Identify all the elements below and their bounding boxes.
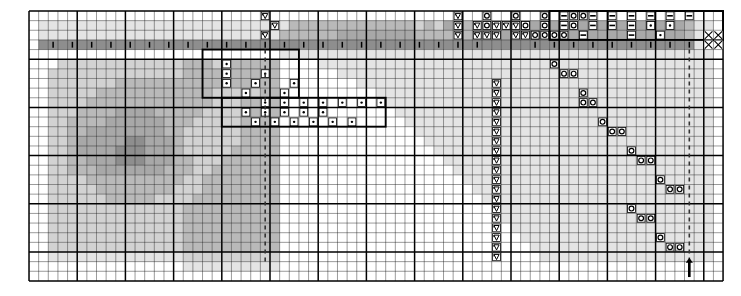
shaded-cell	[588, 88, 598, 98]
shaded-cell	[231, 233, 241, 243]
shaded-cell	[125, 78, 135, 88]
shaded-cell	[212, 117, 222, 127]
shaded-cell	[530, 98, 540, 108]
shaded-cell	[550, 242, 560, 252]
shaded-cell	[106, 30, 116, 40]
shaded-cell	[617, 69, 627, 79]
shaded-cell	[270, 88, 280, 98]
shaded-cell	[164, 185, 174, 195]
shaded-cell	[434, 50, 444, 60]
shaded-cell	[231, 98, 241, 108]
shaded-cell	[68, 242, 78, 252]
shaded-cell	[511, 175, 521, 185]
shaded-cell	[48, 233, 58, 243]
shaded-cell	[203, 69, 213, 79]
shaded-cell	[598, 88, 608, 98]
shaded-cell	[472, 127, 482, 137]
shaded-cell	[299, 21, 309, 31]
dot-symbol	[322, 111, 324, 113]
shaded-cell	[636, 146, 646, 156]
shaded-cell	[231, 204, 241, 214]
shaded-cell	[212, 69, 222, 79]
shaded-cell	[135, 107, 145, 117]
shaded-cell	[106, 204, 116, 214]
shaded-cell	[241, 242, 251, 252]
shaded-cell	[636, 98, 646, 108]
shaded-cell	[665, 107, 675, 117]
shaded-cell	[656, 223, 666, 233]
shaded-cell	[511, 88, 521, 98]
shaded-cell	[154, 117, 164, 127]
shaded-cell	[135, 252, 145, 262]
shaded-cell	[578, 185, 588, 195]
shaded-cell	[482, 78, 492, 88]
shaded-cell	[694, 194, 704, 204]
shaded-cell	[540, 136, 550, 146]
shaded-cell	[472, 59, 482, 69]
shaded-cell	[135, 165, 145, 175]
shaded-cell	[617, 185, 627, 195]
cross-stitch-grid[interactable]	[28, 10, 724, 282]
shaded-cell	[212, 252, 222, 262]
shaded-cell	[675, 165, 685, 175]
shaded-cell	[463, 50, 473, 60]
dot-symbol	[225, 63, 227, 65]
shaded-cell	[578, 194, 588, 204]
shaded-cell	[125, 233, 135, 243]
shaded-cell	[58, 88, 68, 98]
shaded-cell	[135, 136, 145, 146]
shaded-cell	[203, 78, 213, 88]
shaded-cell	[164, 136, 174, 146]
shaded-cell	[386, 69, 396, 79]
shaded-cell	[598, 136, 608, 146]
shaded-cell	[125, 223, 135, 233]
shaded-cell	[174, 40, 184, 50]
shaded-cell	[48, 78, 58, 88]
shaded-cell	[415, 59, 425, 69]
shaded-cell	[154, 127, 164, 137]
shaded-cell	[77, 136, 87, 146]
shaded-cell	[434, 117, 444, 127]
shaded-cell	[106, 233, 116, 243]
shaded-cell	[222, 204, 232, 214]
shaded-cell	[569, 156, 579, 166]
shaded-cell	[231, 262, 241, 272]
shaded-cell	[704, 88, 714, 98]
shaded-cell	[135, 69, 145, 79]
shaded-cell	[106, 252, 116, 262]
grid-svg[interactable]	[28, 10, 724, 282]
shaded-cell	[116, 107, 126, 117]
shaded-cell	[434, 59, 444, 69]
shaded-cell	[289, 21, 299, 31]
shaded-cell	[116, 127, 126, 137]
shaded-cell	[540, 127, 550, 137]
shaded-cell	[77, 213, 87, 223]
shaded-cell	[164, 69, 174, 79]
shaded-cell	[39, 30, 49, 40]
shaded-cell	[530, 107, 540, 117]
shaded-cell	[106, 59, 116, 69]
shaded-cell	[231, 185, 241, 195]
shaded-cell	[164, 98, 174, 108]
shaded-cell	[607, 242, 617, 252]
shaded-cell	[511, 165, 521, 175]
shaded-cell	[665, 165, 675, 175]
shaded-cell	[318, 59, 328, 69]
shaded-cell	[569, 165, 579, 175]
shaded-cell	[598, 30, 608, 40]
shaded-cell	[550, 204, 560, 214]
shaded-cell	[424, 88, 434, 98]
shaded-cell	[222, 252, 232, 262]
shaded-cell	[617, 78, 627, 88]
shaded-cell	[154, 21, 164, 31]
shaded-cell	[559, 204, 569, 214]
shaded-cell	[145, 78, 155, 88]
shaded-cell	[656, 242, 666, 252]
shaded-cell	[578, 146, 588, 156]
shaded-cell	[646, 117, 656, 127]
shaded-cell	[251, 252, 261, 262]
dot-symbol	[245, 92, 247, 94]
shaded-cell	[521, 156, 531, 166]
shaded-cell	[607, 156, 617, 166]
shaded-cell	[617, 204, 627, 214]
